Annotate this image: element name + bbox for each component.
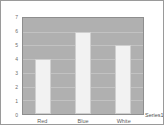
y-axis-tick-label: 0 (15, 113, 18, 118)
x-axis-tick-label-blue: Blue (63, 116, 104, 125)
bar-white[interactable] (115, 45, 131, 114)
y-axis: 7 6 5 4 3 2 1 0 (4, 17, 20, 115)
bar-slot-blue (63, 18, 103, 114)
x-axis-tick-label-red: Red (22, 116, 63, 125)
y-axis-tick-label: 7 (15, 15, 18, 20)
x-axis-tick-label-white: White (103, 116, 144, 125)
y-axis-tick-label: 6 (15, 28, 18, 33)
chart-container: 7 6 5 4 3 2 1 0 (0, 0, 164, 125)
bar-red[interactable] (35, 59, 51, 114)
plot-area (22, 17, 144, 115)
bar-slot-red (23, 18, 63, 114)
y-axis-tick-label: 5 (15, 42, 18, 47)
y-axis-tick-label: 3 (15, 70, 18, 75)
bars-layer (23, 18, 143, 114)
chart-inner-canvas: 7 6 5 4 3 2 1 0 (4, 4, 162, 123)
y-axis-tick-label: 2 (15, 84, 18, 89)
bar-blue[interactable] (75, 32, 91, 114)
bar-slot-white (103, 18, 143, 114)
y-axis-tick-label: 4 (15, 56, 18, 61)
legend: Series1 (144, 108, 164, 122)
legend-entry-series1: Series1 (144, 112, 164, 119)
x-axis: Red Blue White (22, 116, 144, 125)
y-axis-tick-label: 1 (15, 98, 18, 103)
